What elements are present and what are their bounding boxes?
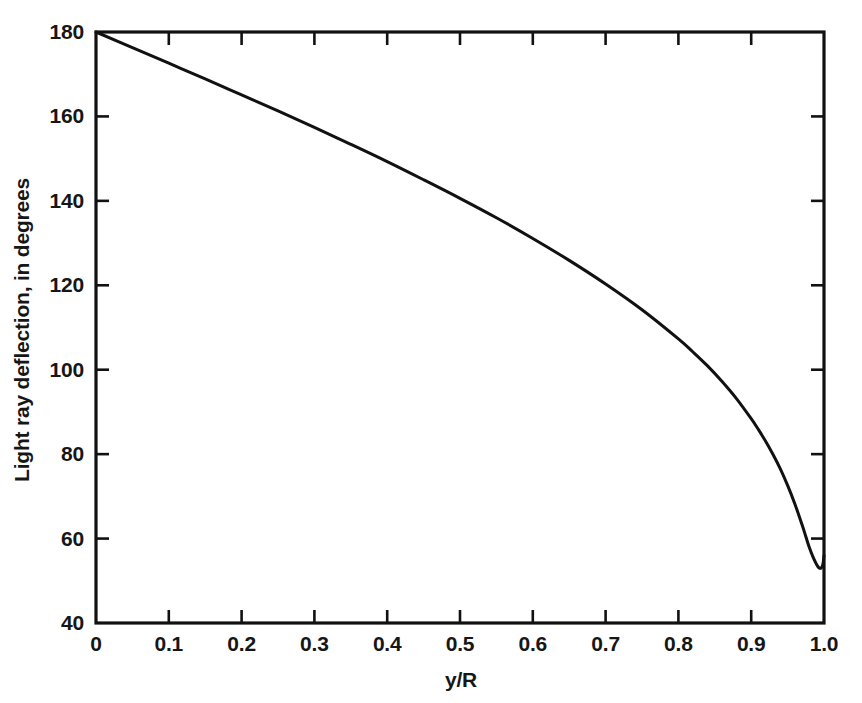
x-tick-label: 0.5	[446, 632, 475, 656]
x-tick-label: 0.4	[373, 632, 402, 656]
x-tick-label: 0.8	[664, 632, 693, 656]
x-tick-label: 0	[90, 632, 101, 656]
y-axis-title: Light ray deflection, in degrees	[10, 178, 34, 482]
x-axis-title: y/R	[445, 668, 477, 692]
deflection-curve-plot	[0, 0, 862, 703]
x-tick-label: 0.9	[737, 632, 766, 656]
y-tick-label: 160	[20, 104, 84, 128]
x-tick-label: 0.7	[591, 632, 620, 656]
y-tick-label: 180	[20, 20, 84, 44]
y-tick-label: 60	[20, 527, 84, 551]
x-tick-label: 1.0	[810, 632, 839, 656]
y-tick-label: 40	[20, 611, 84, 635]
x-tick-label: 0.2	[227, 632, 256, 656]
chart-figure: 406080100120140160180 00.10.20.30.40.50.…	[0, 0, 862, 703]
x-tick-label: 0.3	[300, 632, 329, 656]
figure-background	[0, 0, 862, 703]
x-tick-label: 0.6	[519, 632, 548, 656]
x-tick-label: 0.1	[155, 632, 184, 656]
